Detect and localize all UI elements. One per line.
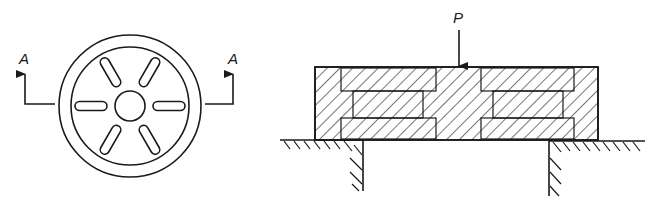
center-hole xyxy=(115,91,145,121)
outer-rim xyxy=(59,35,201,177)
radial-slot xyxy=(99,56,123,88)
load-arrow: P xyxy=(453,9,463,66)
radial-slots xyxy=(75,56,185,156)
load-label: P xyxy=(453,9,463,26)
engineering-diagram: A A P xyxy=(0,0,666,215)
section-label-left: A xyxy=(18,50,29,67)
section-arrow-left: A xyxy=(18,50,55,104)
plate-stack-section xyxy=(315,67,598,140)
inner-rim xyxy=(71,47,189,165)
radial-slot xyxy=(75,102,107,111)
left-support xyxy=(280,140,363,191)
section-view: P xyxy=(280,9,645,196)
radial-slot xyxy=(138,56,162,88)
radial-slot xyxy=(138,124,162,156)
radial-slot xyxy=(153,102,185,111)
plan-view: A A xyxy=(18,35,238,177)
section-arrow-right: A xyxy=(205,50,238,104)
section-label-right: A xyxy=(227,50,238,67)
radial-slot xyxy=(99,124,123,156)
right-support xyxy=(549,141,645,196)
